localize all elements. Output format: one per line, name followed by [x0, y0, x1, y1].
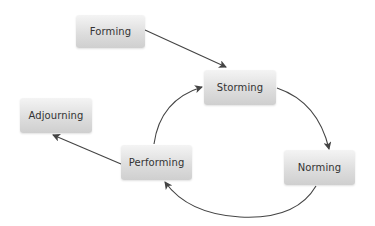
- edge-performing-to-storming: [154, 87, 202, 144]
- edge-performing-to-adjourning: [53, 135, 121, 164]
- edge-norming-to-performing: [165, 182, 316, 217]
- node-label: Adjourning: [29, 110, 84, 121]
- node-norming: Norming: [284, 150, 355, 185]
- node-label: Norming: [298, 162, 341, 173]
- node-label: Storming: [217, 82, 263, 93]
- node-storming: Storming: [204, 70, 276, 105]
- edge-storming-to-norming: [277, 88, 329, 149]
- edge-forming-to-storming: [145, 30, 226, 67]
- node-forming: Forming: [76, 15, 145, 48]
- node-label: Performing: [129, 157, 185, 168]
- node-label: Forming: [90, 26, 131, 37]
- node-adjourning: Adjourning: [20, 98, 92, 133]
- node-performing: Performing: [121, 145, 192, 180]
